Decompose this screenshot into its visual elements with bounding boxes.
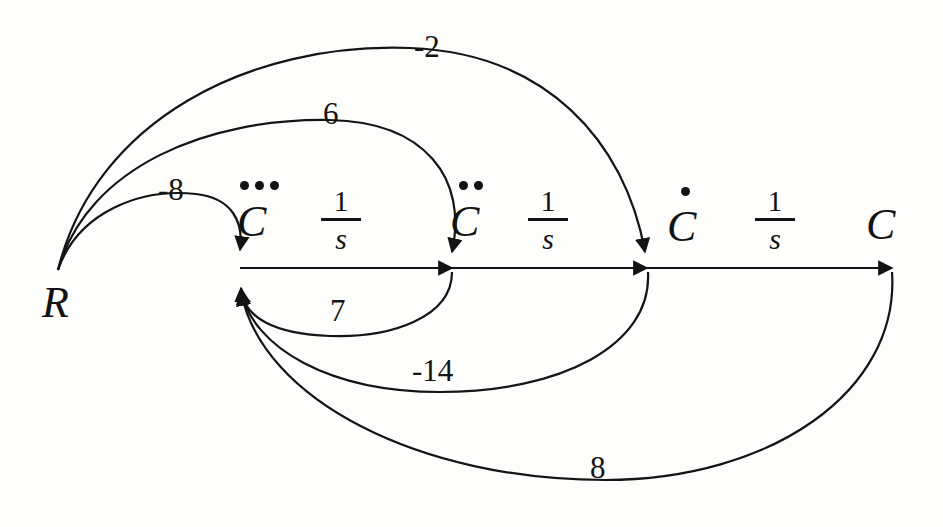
- node-label-C-single-dot: C: [667, 205, 696, 249]
- node-label-C-triple-dot: C: [237, 200, 266, 244]
- gain-label-integrator-2: 1 s: [528, 186, 568, 254]
- node-dots-C-double: [459, 181, 483, 190]
- gain-label-integrator-1: 1 s: [321, 186, 361, 254]
- gain-label-integrator-3: 1 s: [755, 186, 795, 254]
- node-dots-C-single: [681, 187, 690, 196]
- gain-label-minus14: -14: [412, 355, 453, 386]
- node-label-C-double-dot: C: [450, 200, 479, 244]
- fraction-denominator: s: [329, 221, 353, 254]
- gain-label-6: 6: [323, 98, 339, 129]
- gain-label-minus8: -8: [158, 174, 184, 205]
- edge-R-to-C2-gain-6: [58, 120, 455, 270]
- gain-label-minus2: -2: [414, 31, 440, 62]
- graph-canvas: [0, 0, 943, 527]
- node-dots-C-triple: [240, 181, 279, 190]
- gain-label-7: 7: [330, 295, 346, 326]
- node-label-C: C: [866, 203, 895, 247]
- fraction-numerator: 1: [328, 186, 355, 218]
- fraction-denominator: s: [763, 221, 787, 254]
- edge-C2-to-C3-gain-7: [241, 272, 452, 336]
- fraction-denominator: s: [536, 221, 560, 254]
- fraction-numerator: 1: [762, 186, 789, 218]
- fraction-numerator: 1: [535, 186, 562, 218]
- gain-label-8: 8: [590, 452, 606, 483]
- node-label-R: R: [42, 281, 69, 325]
- signal-flow-graph-figure: R C C C C 1 s 1 s 1 s -8 6 -2 7 -14 8: [0, 0, 943, 527]
- edge-R-to-C3-gain-minus8: [58, 193, 241, 270]
